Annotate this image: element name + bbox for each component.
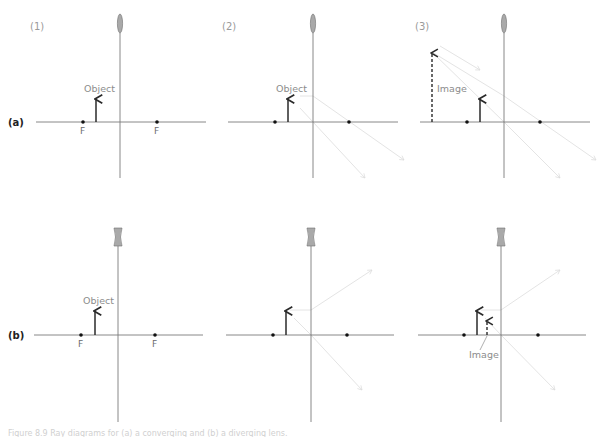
panel-label-1: (1)	[30, 21, 44, 32]
convex-lens-icon	[501, 14, 506, 33]
row-label-a: (a)	[8, 117, 24, 128]
focal-label-right: F	[154, 126, 159, 136]
figure-caption: Figure 8.9 Ray diagrams for (a) a conver…	[8, 429, 288, 437]
image-leader-line	[480, 336, 487, 350]
image-label: Image	[469, 349, 499, 360]
panel-label-2: (2)	[222, 21, 236, 32]
focal-point-right	[536, 333, 540, 337]
focal-point-left	[271, 333, 275, 337]
object-label: Object	[276, 83, 307, 94]
focal-point-right	[153, 333, 157, 337]
concave-lens-icon	[497, 228, 505, 246]
light-ray	[432, 52, 560, 178]
panel-a2: Object	[228, 14, 404, 178]
concave-lens-icon	[114, 228, 122, 246]
image-label: Image	[437, 83, 467, 94]
focal-point-left	[79, 333, 83, 337]
object-label: Object	[83, 295, 114, 306]
focal-point-right	[345, 333, 349, 337]
light-ray	[290, 270, 372, 310]
row-label-b: (b)	[8, 330, 24, 341]
panels-group: FFObjectObjectImageFFObjectImage	[34, 14, 596, 422]
focal-label-left: F	[80, 126, 85, 136]
focal-label-left: F	[78, 339, 83, 349]
focal-point-left	[81, 120, 85, 124]
light-ray	[440, 46, 480, 70]
light-ray	[300, 108, 365, 178]
object-label: Object	[84, 83, 115, 94]
focal-label-right: F	[152, 339, 157, 349]
panel-a1: FFObject	[36, 14, 206, 178]
convex-lens-icon	[117, 14, 122, 33]
focal-point-left	[465, 120, 469, 124]
light-ray	[432, 52, 596, 160]
panel-a3: Image	[420, 14, 596, 178]
panel-label-3: (3)	[415, 21, 429, 32]
light-ray	[294, 318, 362, 390]
focal-point-left	[462, 333, 466, 337]
lens-ray-diagram: (a) (b) (1) (2) (3) FFObjectObjectImageF…	[0, 0, 605, 437]
panel-b3: Image	[418, 228, 586, 422]
concave-lens-icon	[307, 228, 315, 246]
focal-point-left	[273, 120, 277, 124]
focal-point-right	[155, 120, 159, 124]
focal-point-right	[347, 120, 351, 124]
panel-b2	[226, 228, 394, 422]
focal-point-right	[538, 120, 542, 124]
convex-lens-icon	[310, 14, 315, 33]
light-ray	[481, 270, 560, 310]
light-ray	[300, 96, 404, 160]
panel-b1: FFObject	[34, 228, 203, 422]
